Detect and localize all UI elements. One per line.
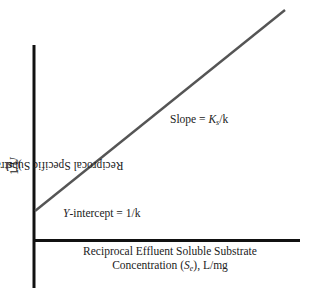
y-intercept-annotation: Y-intercept = 1/k — [63, 207, 140, 219]
lineweaver-burk-chart: Reciprocal Specific Substrate Utilizatio… — [0, 0, 315, 299]
x-axis-label: Reciprocal Effluent Soluble Substrate Co… — [60, 244, 280, 276]
slope-annotation: Slope = Ks/k — [170, 113, 228, 127]
y-axis-label: Reciprocal Specific Substrate Utilizatio… — [2, 45, 26, 287]
data-line — [35, 10, 285, 211]
